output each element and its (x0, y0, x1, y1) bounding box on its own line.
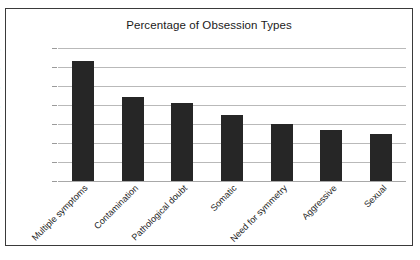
y-tick-mark (52, 124, 57, 125)
bar-slot (356, 48, 406, 181)
chart-title: Percentage of Obsession Types (6, 19, 412, 31)
y-tick-mark (52, 162, 57, 163)
x-label-slot: Pathological doubt (157, 183, 207, 253)
x-axis-tick-label: Sexual (362, 183, 389, 210)
bar-series (58, 48, 406, 181)
bar-slot (108, 48, 158, 181)
bar[interactable] (320, 130, 342, 181)
x-axis-tick-label: Somatic (209, 183, 239, 213)
y-tick-mark (52, 48, 57, 49)
x-label-slot: Need for symmetry (257, 183, 307, 253)
chart-frame: Percentage of Obsession Types 70%60%50%4… (5, 8, 413, 246)
bar[interactable] (122, 97, 144, 181)
bar-slot (207, 48, 257, 181)
y-tick-mark (52, 143, 57, 144)
x-axis-tick-label: Multiple symptoms (30, 183, 90, 243)
bar-slot (157, 48, 207, 181)
x-axis-tick-label: Aggressive (300, 183, 339, 222)
bar-slot (307, 48, 357, 181)
bar[interactable] (221, 115, 243, 182)
bar[interactable] (171, 103, 193, 181)
y-tick-mark (52, 105, 57, 106)
bar[interactable] (271, 124, 293, 181)
x-label-slot: Aggressive (307, 183, 357, 253)
y-tick-mark (52, 86, 57, 87)
y-tick-mark (52, 67, 57, 68)
bar[interactable] (370, 134, 392, 182)
x-axis-labels: Multiple symptomsContaminationPathologic… (58, 183, 406, 253)
y-tick-mark (52, 181, 57, 182)
bar-slot (58, 48, 108, 181)
bar[interactable] (72, 61, 94, 181)
plot-area: 70%60%50%40%30%20%10%0% (58, 48, 406, 181)
x-label-slot: Sexual (356, 183, 406, 253)
bar-slot (257, 48, 307, 181)
